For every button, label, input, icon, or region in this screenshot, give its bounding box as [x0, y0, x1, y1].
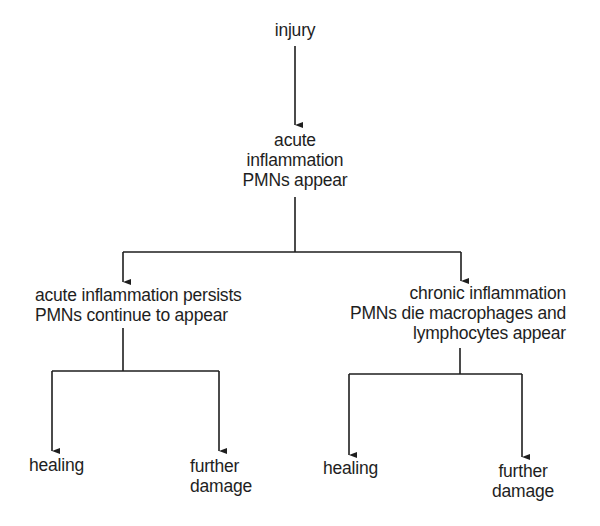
- node-text: lymphocytes appear: [300, 323, 566, 343]
- connector-lines: [0, 0, 600, 526]
- node-text: PMNs continue to appear: [35, 305, 275, 325]
- node-text: chronic inflammation: [300, 283, 566, 303]
- node-text: PMNs die macrophages and: [300, 303, 566, 323]
- node-text: acute: [225, 130, 365, 150]
- node-text: healing: [323, 458, 378, 478]
- node-text: healing: [29, 455, 84, 475]
- node-healing-right: healing: [323, 458, 378, 478]
- node-acute-persists: acute inflammation persists PMNs continu…: [35, 285, 275, 325]
- node-text: further: [488, 461, 558, 481]
- node-acute-inflammation: acute inflammation PMNs appear: [225, 130, 365, 190]
- node-text: injury: [255, 20, 335, 40]
- node-chronic-inflammation: chronic inflammation PMNs die macrophage…: [300, 283, 566, 343]
- node-further-damage-right: further damage: [488, 461, 558, 501]
- node-text: acute inflammation persists: [35, 285, 275, 305]
- node-text: PMNs appear: [225, 170, 365, 190]
- node-further-damage-left: further damage: [190, 456, 252, 496]
- node-text: damage: [488, 481, 558, 501]
- node-text: damage: [190, 476, 252, 496]
- node-injury: injury: [255, 20, 335, 40]
- node-text: further: [190, 456, 252, 476]
- node-healing-left: healing: [29, 455, 84, 475]
- node-text: inflammation: [225, 150, 365, 170]
